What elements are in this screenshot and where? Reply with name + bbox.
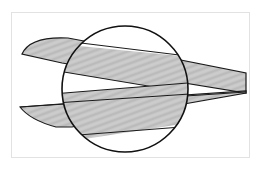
scissor-blades-illustration: [0, 0, 264, 170]
